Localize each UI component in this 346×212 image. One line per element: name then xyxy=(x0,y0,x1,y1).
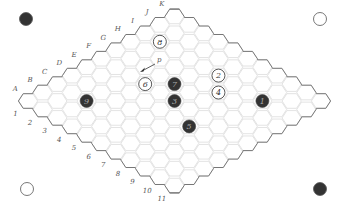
hex-cell-B7[interactable] xyxy=(121,136,140,151)
hex-cell-B5[interactable] xyxy=(92,119,111,134)
hex-cell-F5[interactable] xyxy=(150,85,169,100)
hex-cell-E3[interactable] xyxy=(106,77,125,92)
col-label-5: 5 xyxy=(72,144,77,152)
row-label-D: D xyxy=(55,59,62,67)
hex-cell-E2[interactable] xyxy=(92,68,111,83)
hex-cell-D5[interactable] xyxy=(121,102,140,117)
hex-cell-G8[interactable] xyxy=(209,102,228,117)
hex-cell-B3[interactable] xyxy=(62,102,81,117)
hex-cell-E4[interactable] xyxy=(121,85,140,100)
hex-cell-J3[interactable] xyxy=(180,34,199,49)
hex-cell-B4[interactable] xyxy=(77,111,96,126)
svg-text:6: 6 xyxy=(143,80,148,89)
hex-cell-G7[interactable] xyxy=(194,94,213,109)
stone-2-I6: 2 xyxy=(212,69,225,82)
annotation-label: p xyxy=(157,56,162,64)
hex-cell-I5[interactable] xyxy=(194,60,213,75)
hex-board: ABCDEFGHIJK1234567891011 123456789 p xyxy=(0,0,346,212)
hex-cell-B6[interactable] xyxy=(106,128,125,143)
corner-bottom-left-white-icon xyxy=(21,183,34,196)
col-label-11: 11 xyxy=(157,195,166,203)
hex-cell-I4[interactable] xyxy=(180,51,199,66)
hex-cell-F2[interactable] xyxy=(106,60,125,75)
hex-cell-C6[interactable] xyxy=(121,119,140,134)
hex-cell-F7[interactable] xyxy=(180,102,199,117)
hex-cell-C4[interactable] xyxy=(92,102,111,117)
hex-cell-H2[interactable] xyxy=(136,43,155,58)
row-label-E: E xyxy=(70,51,76,59)
row-label-H: H xyxy=(114,25,122,33)
hex-cell-C9[interactable] xyxy=(165,144,184,159)
hex-cell-J10[interactable] xyxy=(282,94,301,109)
col-label-7: 7 xyxy=(101,161,106,169)
hex-cell-E5[interactable] xyxy=(136,94,155,109)
corner-top-left-black-icon xyxy=(20,13,33,26)
hex-cell-C2[interactable] xyxy=(62,85,81,100)
hex-cell-D7[interactable] xyxy=(150,119,169,134)
hex-cell-C5[interactable] xyxy=(106,111,125,126)
hex-cell-I8[interactable] xyxy=(238,85,257,100)
col-label-10: 10 xyxy=(143,187,152,195)
hex-cell-H8[interactable] xyxy=(224,94,243,109)
svg-text:5: 5 xyxy=(187,122,192,131)
hex-cell-I7[interactable] xyxy=(224,77,243,92)
hex-cell-I3[interactable] xyxy=(165,43,184,58)
hex-cell-E7[interactable] xyxy=(165,111,184,126)
svg-text:1: 1 xyxy=(260,97,265,106)
hex-cell-B2[interactable] xyxy=(48,94,67,109)
stone-1-I9: 1 xyxy=(256,95,269,108)
hex-cell-G4[interactable] xyxy=(150,68,169,83)
hex-cell-G3[interactable] xyxy=(136,60,155,75)
hex-cell-J6[interactable] xyxy=(224,60,243,75)
hex-cell-D4[interactable] xyxy=(106,94,125,109)
hex-cell-J5[interactable] xyxy=(209,51,228,66)
stone-5-E8: 5 xyxy=(183,120,196,133)
row-label-A: A xyxy=(12,85,18,93)
hex-cell-J8[interactable] xyxy=(253,77,272,92)
hex-cell-D10[interactable] xyxy=(194,144,213,159)
hex-cell-D8[interactable] xyxy=(165,128,184,143)
hex-cell-G6[interactable] xyxy=(180,85,199,100)
hex-cell-G2[interactable] xyxy=(121,51,140,66)
col-label-8: 8 xyxy=(116,170,121,178)
hex-cell-B9[interactable] xyxy=(150,153,169,168)
stone-9-C3: 9 xyxy=(80,95,93,108)
hex-cell-J7[interactable] xyxy=(238,68,257,83)
hex-cell-I10[interactable] xyxy=(267,102,286,117)
hex-cell-F10[interactable] xyxy=(224,128,243,143)
row-label-I: I xyxy=(130,17,134,25)
hex-cell-D2[interactable] xyxy=(77,77,96,92)
hex-cell-G9[interactable] xyxy=(224,111,243,126)
hex-cell-B10[interactable] xyxy=(165,161,184,176)
svg-text:3: 3 xyxy=(172,97,177,106)
hex-cell-J9[interactable] xyxy=(267,85,286,100)
hex-cell-H6[interactable] xyxy=(194,77,213,92)
hex-cell-H9[interactable] xyxy=(238,102,257,117)
hex-cell-E6[interactable] xyxy=(150,102,169,117)
stone-3-F6: 3 xyxy=(168,95,181,108)
col-label-6: 6 xyxy=(86,153,91,161)
hex-cell-H5[interactable] xyxy=(180,68,199,83)
hex-cell-E10[interactable] xyxy=(209,136,228,151)
hex-cell-F3[interactable] xyxy=(121,68,140,83)
hex-cell-G10[interactable] xyxy=(238,119,257,134)
hex-cell-H10[interactable] xyxy=(253,111,272,126)
hex-cell-J2[interactable] xyxy=(165,26,184,41)
hex-cell-C8[interactable] xyxy=(150,136,169,151)
hex-cell-F8[interactable] xyxy=(194,111,213,126)
hex-cell-J4[interactable] xyxy=(194,43,213,58)
col-label-2: 2 xyxy=(27,119,33,127)
hex-cell-E9[interactable] xyxy=(194,128,213,143)
hex-cell-C7[interactable] xyxy=(136,128,155,143)
row-label-J: J xyxy=(144,8,150,16)
hex-cell-B8[interactable] xyxy=(136,144,155,159)
hex-cell-F9[interactable] xyxy=(209,119,228,134)
row-label-B: B xyxy=(26,76,32,84)
col-label-9: 9 xyxy=(130,178,135,186)
hex-cell-D6[interactable] xyxy=(136,111,155,126)
hex-cell-C10[interactable] xyxy=(180,153,199,168)
hex-cell-D9[interactable] xyxy=(180,136,199,151)
hex-cell-H4[interactable] xyxy=(165,60,184,75)
hex-cell-D3[interactable] xyxy=(92,85,111,100)
stone-6-F4: 6 xyxy=(139,78,152,91)
